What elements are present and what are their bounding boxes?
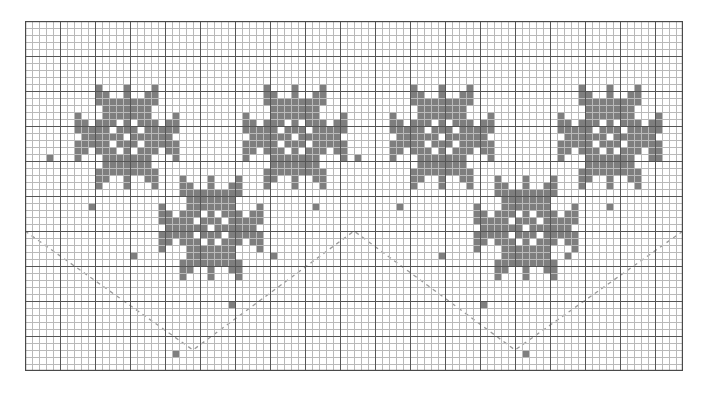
- cross-stitch-chart-canvas: [25, 21, 683, 371]
- pattern-chart-container: [0, 0, 708, 394]
- chart-grid-area: [25, 21, 683, 371]
